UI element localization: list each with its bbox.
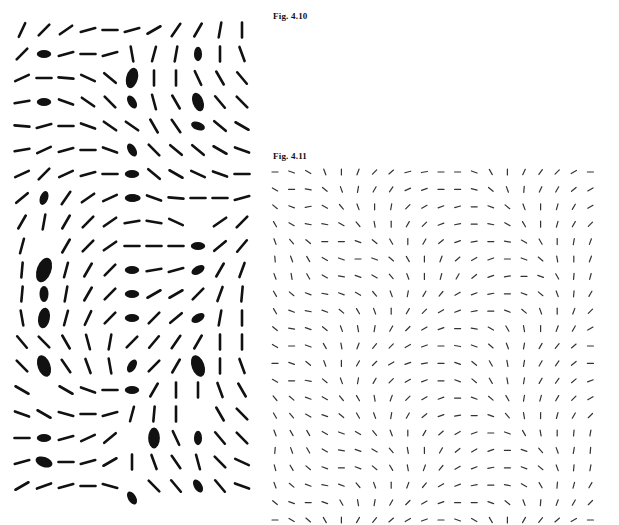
fine-orientation-stick [405, 188, 410, 191]
fine-orientation-stick [456, 274, 459, 279]
fine-orientation-stick [539, 361, 542, 366]
fine-orientation-stick [406, 222, 409, 227]
fine-orientation-stick [421, 171, 427, 172]
fine-orientation-stick [407, 465, 408, 471]
fine-orientation-stick [306, 171, 311, 174]
fine-orientation-stick [355, 432, 360, 435]
fine-orientation-stick [374, 482, 376, 488]
fine-orientation-stick [340, 187, 342, 193]
fine-orientation-stick [357, 186, 358, 192]
fine-orientation-stick [488, 467, 494, 468]
fine-orientation-stick [422, 345, 428, 347]
fine-orientation-stick [573, 447, 574, 453]
fine-orientation-stick [273, 396, 277, 401]
fine-orientation-stick [357, 517, 360, 522]
fine-orientation-stick [305, 206, 311, 207]
fine-orientation-stick [572, 361, 577, 365]
fine-orientation-stick [572, 326, 575, 331]
fine-orientation-stick [572, 344, 577, 348]
fine-orientation-stick [574, 465, 575, 471]
fine-orientation-stick [355, 292, 360, 295]
fine-orientation-stick [588, 205, 593, 208]
fine-orientation-stick [523, 222, 526, 227]
fine-orientation-stick [373, 187, 376, 192]
fine-orientation-stick [389, 274, 393, 279]
fine-orientation-stick [489, 378, 492, 383]
fine-orientation-stick [438, 484, 443, 487]
fine-orientation-stick [357, 326, 358, 332]
fine-orientation-stick [307, 256, 310, 261]
fine-orientation-stick [588, 188, 593, 191]
fine-orientation-stick [356, 222, 360, 227]
fine-orientation-stick [505, 501, 510, 505]
fine-orientation-stick [340, 326, 342, 332]
fine-orientation-stick [291, 273, 292, 279]
fine-orientation-stick [290, 239, 294, 244]
fine-orientation-stick [389, 257, 394, 261]
fine-orientation-stick [422, 397, 427, 400]
fine-orientation-stick [439, 466, 443, 471]
fine-orientation-stick [389, 344, 393, 348]
fine-orientation-stick [305, 484, 311, 486]
fine-orientation-stick [289, 502, 295, 504]
fine-orientation-stick [422, 483, 426, 488]
fine-orientation-stick [405, 362, 411, 364]
fine-orientation-stick [340, 378, 342, 384]
fine-orientation-stick [557, 256, 558, 262]
fine-orientation-stick [372, 449, 377, 452]
fine-orientation-stick [322, 432, 327, 435]
fine-orientation-stick [540, 430, 541, 436]
fine-orientation-stick [524, 186, 525, 192]
fine-orientation-stick [523, 500, 525, 506]
fine-orientation-stick [306, 466, 311, 470]
fine-orientation-stick [455, 310, 461, 312]
fine-orientation-stick [455, 466, 460, 469]
fine-orientation-stick [307, 274, 310, 279]
fine-orientation-stick [357, 396, 360, 401]
fine-orientation-stick [275, 256, 276, 262]
fine-orientation-stick [323, 517, 326, 522]
fine-orientation-stick [373, 344, 377, 349]
fine-orientation-stick [439, 240, 444, 244]
fine-orientation-stick [506, 326, 509, 331]
fine-orientation-stick [372, 466, 377, 470]
fine-orientation-stick [523, 326, 524, 332]
fine-orientation-stick [574, 430, 575, 436]
fine-orientation-stick [372, 240, 377, 244]
fine-orientation-stick [590, 447, 591, 453]
fine-orientation-stick [422, 380, 428, 382]
fine-orientation-stick [523, 204, 525, 210]
fine-orientation-stick [572, 222, 575, 227]
fine-orientation-stick [389, 518, 394, 522]
fine-orientation-stick [555, 344, 559, 349]
fine-orientation-stick [322, 397, 327, 400]
fine-orientation-stick [373, 518, 377, 523]
fine-orientation-stick [273, 327, 278, 331]
fine-orientation-stick [305, 224, 311, 225]
fine-orientation-stick [455, 519, 461, 521]
fine-orientation-stick [290, 465, 293, 470]
fine-orientation-stick [422, 414, 427, 418]
fine-orientation-stick [455, 206, 461, 208]
fine-orientation-stick [272, 188, 277, 191]
fine-orientation-stick [374, 500, 375, 506]
fine-orientation-stick [322, 258, 327, 261]
fine-orientation-stick [339, 293, 345, 295]
fine-orientation-stick [290, 430, 293, 435]
fine-orientation-stick [389, 379, 393, 383]
fine-orientation-stick [421, 363, 427, 364]
fine-orientation-stick [539, 518, 543, 523]
fine-orientation-stick [507, 360, 508, 366]
fine-orientation-stick [274, 482, 276, 488]
fine-orientation-stick [555, 170, 559, 174]
fine-orientation-stick [538, 292, 543, 296]
fine-orientation-stick [471, 345, 477, 347]
fine-orientation-stick [588, 327, 593, 330]
fine-orientation-stick [406, 500, 410, 504]
fine-orientation-stick [274, 430, 276, 436]
fine-orientation-stick [506, 343, 508, 349]
fine-orientation-stick [588, 309, 592, 313]
fine-orientation-stick [338, 450, 344, 451]
fine-orientation-stick [272, 345, 277, 348]
fine-orientation-stick [455, 415, 461, 416]
